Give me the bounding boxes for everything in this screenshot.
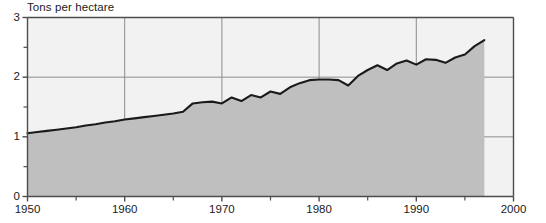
y-tick-label: 1 xyxy=(2,131,20,142)
y-tick-label: 2 xyxy=(2,71,20,82)
x-tick-label: 1970 xyxy=(200,203,244,215)
x-tick-label: 1960 xyxy=(103,203,147,215)
chart-container: Tons per hectare 0123 195019601970198019… xyxy=(0,0,546,223)
x-tick-label: 1980 xyxy=(297,203,341,215)
x-tick-label: 1950 xyxy=(6,203,50,215)
area-chart-plot xyxy=(0,0,546,223)
y-tick-label: 0 xyxy=(2,191,20,202)
y-tick-label: 3 xyxy=(2,12,20,23)
x-tick-label: 1990 xyxy=(394,203,438,215)
x-tick-label: 2000 xyxy=(492,203,536,215)
